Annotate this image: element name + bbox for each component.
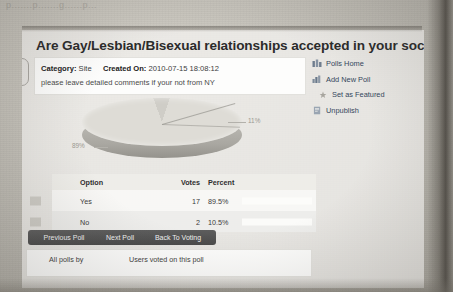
cell-option: No <box>80 217 89 226</box>
column-header-percent: Percent <box>208 178 234 187</box>
polls-home-icon <box>312 59 322 68</box>
poll-side-menu: Polls Home Add New Poll Set as Featured … <box>312 56 416 118</box>
pie-chart <box>82 96 247 168</box>
page-title: Are Gay/Lesbian/Bisexual relationships a… <box>36 38 408 53</box>
sidebar-item-label: Polls Home <box>326 60 364 67</box>
pie-leader-line-no <box>228 122 246 123</box>
bottom-tabs-panel: All polls by Users voted on this poll <box>26 249 312 277</box>
scan-top-artifact-text: p.......p.......g......p... <box>6 0 206 14</box>
cell-votes: 2 <box>174 217 200 226</box>
pie-slice-divider-2 <box>162 124 240 128</box>
sidebar-item-label: Set as Featured <box>332 91 385 98</box>
row-color-swatch <box>30 217 41 226</box>
star-icon <box>318 90 328 99</box>
category-value: Site <box>79 64 92 73</box>
column-header-votes: Votes <box>174 178 200 187</box>
sidebar-item-set-as-featured[interactable]: Set as Featured <box>312 87 416 103</box>
sidebar-item-label: Add New Poll <box>326 76 370 83</box>
cell-percent: 10.5% <box>208 217 228 226</box>
pie-leader-line-yes <box>94 147 108 148</box>
unpublish-icon <box>312 106 322 115</box>
tab-users-voted-on-poll[interactable]: Users voted on this poll <box>129 255 204 264</box>
pie-label-no: 11% <box>248 117 260 124</box>
table-header-row: Option Votes Percent <box>52 174 316 190</box>
pie-3d-top <box>82 98 242 146</box>
poll-description: please leave detailed comments if your n… <box>41 78 215 87</box>
scan-right-edge-shadow <box>427 0 453 292</box>
sidebar-item-label: Unpublish <box>326 107 359 114</box>
sidebar-item-add-new-poll[interactable]: Add New Poll <box>312 72 416 88</box>
sidebar-item-unpublish[interactable]: Unpublish <box>312 103 416 119</box>
sidebar-item-polls-home[interactable]: Polls Home <box>312 56 416 72</box>
category-label: Category: <box>41 64 76 73</box>
previous-poll-button[interactable]: Previous Poll <box>28 230 100 245</box>
scan-bottom-edge <box>0 278 453 292</box>
table-row: Yes 17 89.5% <box>52 190 316 211</box>
column-header-option: Option <box>80 178 103 187</box>
tab-all-polls-by[interactable]: All polls by <box>49 255 83 264</box>
created-on-label: Created On: <box>103 64 146 73</box>
percent-bar-track <box>242 197 312 204</box>
poll-meta-row: Category: Site Created On: 2010-07-15 18… <box>41 64 219 73</box>
percent-bar-track <box>242 218 312 225</box>
poll-results-page: Are Gay/Lesbian/Bisexual relationships a… <box>22 30 424 288</box>
table-row: No 2 10.5% <box>52 211 316 232</box>
pie-label-yes: 89% <box>72 142 85 149</box>
row-color-swatch <box>30 196 41 205</box>
created-on-value: 2010-07-15 18:08:12 <box>149 64 220 73</box>
cell-percent: 89.5% <box>208 196 228 205</box>
cell-option: Yes <box>80 196 92 205</box>
back-to-voting-button[interactable]: Back To Voting <box>140 230 216 245</box>
pie-slice-divider-1 <box>162 103 235 125</box>
results-table: Option Votes Percent Yes 17 89.5% No 2 1… <box>52 174 316 232</box>
poll-action-buttons: Previous Poll Next Poll Back To Voting <box>22 230 222 247</box>
scan-top-edge <box>22 26 422 32</box>
left-edge-tab-artifact <box>22 58 29 86</box>
poll-info-box: Category: Site Created On: 2010-07-15 18… <box>34 57 306 95</box>
poll-results-chart: 11% 89% <box>62 92 292 170</box>
add-new-poll-icon <box>312 75 322 84</box>
cell-votes: 17 <box>174 196 200 205</box>
